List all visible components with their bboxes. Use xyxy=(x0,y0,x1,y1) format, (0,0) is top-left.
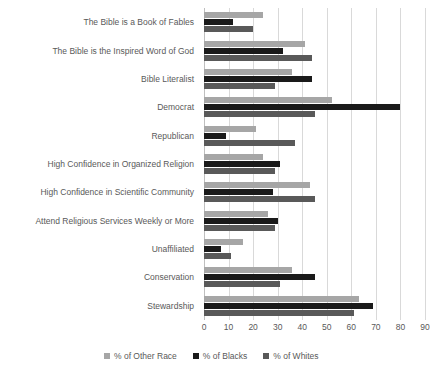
y-axis-category-labels: The Bible is a Book of FablesThe Bible i… xyxy=(0,8,200,320)
y-axis-label: Democrat xyxy=(157,102,194,112)
bar-white xyxy=(204,168,275,174)
bar-group xyxy=(204,8,425,36)
x-tick-label: 60 xyxy=(347,322,356,332)
bar-groups xyxy=(204,8,425,320)
x-tick-label: 40 xyxy=(297,322,306,332)
y-axis-label: High Confidence in Organized Religion xyxy=(48,159,194,169)
bar-spacer xyxy=(204,245,425,246)
bar-group xyxy=(204,36,425,64)
bar-group xyxy=(204,207,425,235)
bar-group xyxy=(204,235,425,263)
legend-swatch-icon xyxy=(104,353,110,359)
x-tick-label: 0 xyxy=(202,322,207,332)
bar-white xyxy=(204,253,231,259)
y-axis-label: Stewardship xyxy=(147,301,194,311)
bar-group xyxy=(204,65,425,93)
legend-swatch-icon xyxy=(193,353,199,359)
bar-white xyxy=(204,281,280,287)
grouped-bar-chart: The Bible is a Book of FablesThe Bible i… xyxy=(0,0,433,374)
bar-white xyxy=(204,26,253,32)
bar-white xyxy=(204,225,275,231)
y-axis-label: The Bible is a Book of Fables xyxy=(83,17,194,27)
x-tick-label: 20 xyxy=(248,322,257,332)
y-axis-label: Conservation xyxy=(144,272,194,282)
bar-white xyxy=(204,196,315,202)
bar-group xyxy=(204,178,425,206)
bar-spacer xyxy=(204,18,425,19)
bar-white xyxy=(204,111,315,117)
y-axis-label: Unaffiliated xyxy=(152,244,194,254)
bar-white xyxy=(204,83,275,89)
bar-spacer xyxy=(204,252,425,253)
bar-group xyxy=(204,263,425,291)
legend-label: % of Other Race xyxy=(114,351,177,361)
x-tick-label: 30 xyxy=(273,322,282,332)
x-tick-label: 80 xyxy=(396,322,405,332)
legend-item[interactable]: % of Other Race xyxy=(104,351,177,361)
legend-swatch-icon xyxy=(263,353,269,359)
y-axis-label: Republican xyxy=(151,131,194,141)
bar-group xyxy=(204,121,425,149)
y-axis-label: Bible Literalist xyxy=(141,74,194,84)
y-axis-label: The Bible is the Inspired Word of God xyxy=(52,46,194,56)
y-axis-label: Attend Religious Services Weekly or More xyxy=(35,216,194,226)
bar-white xyxy=(204,55,312,61)
x-tick-label: 70 xyxy=(371,322,380,332)
bar-spacer xyxy=(204,132,425,133)
plot-area xyxy=(204,8,425,320)
y-axis-label: High Confidence in Scientific Community xyxy=(40,187,194,197)
x-tick-label: 10 xyxy=(224,322,233,332)
bar-group xyxy=(204,150,425,178)
bar-white xyxy=(204,310,354,316)
x-axis-tick-labels: 0102030405060708090 xyxy=(204,322,433,336)
bar-group xyxy=(204,93,425,121)
gridline-90 xyxy=(425,8,426,320)
legend-item[interactable]: % of Blacks xyxy=(193,351,247,361)
bar-white xyxy=(204,140,295,146)
legend-label: % of Blacks xyxy=(203,351,247,361)
legend-label: % of Whites xyxy=(273,351,318,361)
x-tick-label: 50 xyxy=(322,322,331,332)
legend-item[interactable]: % of Whites xyxy=(263,351,318,361)
bar-group xyxy=(204,292,425,320)
chart-legend: % of Other Race% of Blacks% of Whites xyxy=(104,348,404,364)
x-tick-label: 90 xyxy=(420,322,429,332)
